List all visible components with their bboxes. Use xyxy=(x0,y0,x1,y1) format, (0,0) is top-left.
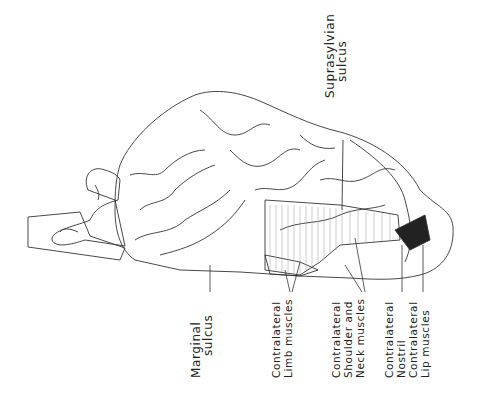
label-line: Contralateral xyxy=(330,298,342,378)
label-line: Lip muscles xyxy=(419,301,431,378)
label-line: Limb muscles xyxy=(282,299,294,378)
label-line: Contralateral xyxy=(383,301,395,378)
label-line: Contralateral xyxy=(270,299,282,378)
label-shoulder-neck-muscles: Contralateral Shoulder and Neck muscles xyxy=(330,298,366,378)
cerebellum xyxy=(52,169,125,246)
brainstem xyxy=(28,212,125,260)
cerebrum-outline xyxy=(115,91,453,279)
label-line: Neck muscles xyxy=(354,298,366,378)
label-line: sulcus xyxy=(202,315,214,378)
label-lip-muscles: Contralateral Lip muscles xyxy=(407,301,431,378)
label-limb-muscles: Contralateral Limb muscles xyxy=(270,299,294,378)
label-line: Shoulder and xyxy=(342,298,354,378)
label-marginal-sulcus: Marginal sulcus xyxy=(190,315,214,378)
label-line: Nostril xyxy=(395,301,407,378)
label-nostril: Contralateral Nostril xyxy=(383,301,407,378)
label-suprasylvian-sulcus: Suprasylvian sulcus xyxy=(324,14,348,98)
brain-diagram: Suprasylvian sulcus Marginal sulcus Cont… xyxy=(0,0,483,401)
label-line: sulcus xyxy=(336,14,348,98)
label-line: Contralateral xyxy=(407,301,419,378)
